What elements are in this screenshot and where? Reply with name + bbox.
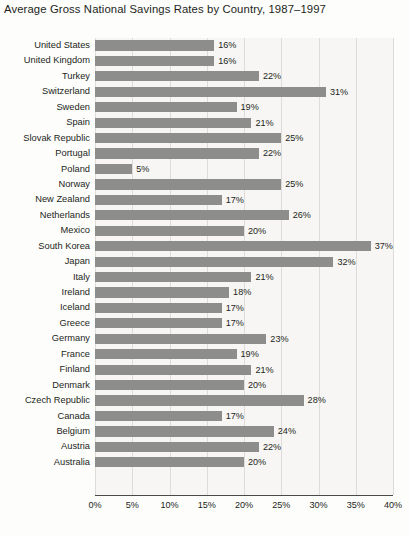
bar — [95, 426, 274, 436]
bar — [95, 303, 222, 313]
bar-row: Switzerland31% — [0, 84, 410, 99]
chart-container: Average Gross National Savings Rates by … — [0, 0, 410, 536]
bar — [95, 164, 132, 174]
category-label: Slovak Republic — [0, 132, 90, 144]
bar-row: Norway25% — [0, 177, 410, 192]
bar — [95, 395, 304, 405]
category-label: Sweden — [0, 101, 90, 113]
bar — [95, 380, 244, 390]
bar-value-label: 16% — [218, 55, 236, 67]
bar-value-label: 19% — [241, 348, 259, 360]
category-label: Mexico — [0, 224, 90, 236]
category-label: Austria — [0, 440, 90, 452]
bar-value-label: 21% — [255, 364, 273, 376]
bar — [95, 349, 237, 359]
bar-value-label: 31% — [330, 86, 348, 98]
x-tick-label: 5% — [112, 500, 152, 510]
bar-value-label: 25% — [285, 178, 303, 190]
bar-row: Finland21% — [0, 362, 410, 377]
bar-value-label: 20% — [248, 225, 266, 237]
bar-row: South Korea37% — [0, 239, 410, 254]
category-label: Germany — [0, 332, 90, 344]
x-tick-label: 25% — [261, 500, 301, 510]
category-label: Denmark — [0, 379, 90, 391]
category-label: United Kingdom — [0, 54, 90, 66]
bar — [95, 102, 237, 112]
x-tick-label: 35% — [336, 500, 376, 510]
bar — [95, 272, 251, 282]
bar — [95, 71, 259, 81]
bar-row: Austria22% — [0, 439, 410, 454]
category-label: Czech Republic — [0, 394, 90, 406]
bar — [95, 334, 266, 344]
category-label: Spain — [0, 116, 90, 128]
bar-value-label: 22% — [263, 70, 281, 82]
bar-row: Iceland17% — [0, 300, 410, 315]
bar — [95, 318, 222, 328]
category-label: Australia — [0, 456, 90, 468]
bar-value-label: 24% — [278, 425, 296, 437]
bar-value-label: 22% — [263, 441, 281, 453]
bar-value-label: 17% — [226, 317, 244, 329]
bar-row: Canada17% — [0, 409, 410, 424]
x-axis-tick-labels: 0%5%10%15%20%25%30%35%40% — [0, 500, 410, 516]
bar-row: Belgium24% — [0, 424, 410, 439]
bar-value-label: 32% — [337, 256, 355, 268]
bar-row: Ireland18% — [0, 285, 410, 300]
bar-row: Sweden19% — [0, 100, 410, 115]
bar-value-label: 17% — [226, 302, 244, 314]
bar-row: United States16% — [0, 38, 410, 53]
bar-rows: United States16%United Kingdom16%Turkey2… — [0, 38, 410, 470]
category-label: Poland — [0, 163, 90, 175]
bar-row: Germany23% — [0, 331, 410, 346]
bar-row: Czech Republic28% — [0, 393, 410, 408]
bar-value-label: 21% — [255, 271, 273, 283]
category-label: Canada — [0, 410, 90, 422]
bar-row: Slovak Republic25% — [0, 131, 410, 146]
bar-value-label: 26% — [293, 209, 311, 221]
bar-row: Poland5% — [0, 162, 410, 177]
x-tick-label: 40% — [373, 500, 410, 510]
bar — [95, 195, 222, 205]
bar — [95, 226, 244, 236]
bar-value-label: 23% — [270, 333, 288, 345]
bar-row: Turkey22% — [0, 69, 410, 84]
category-label: Ireland — [0, 286, 90, 298]
bar-row: Mexico20% — [0, 223, 410, 238]
bar — [95, 241, 371, 251]
bar — [95, 457, 244, 467]
bar-row: France19% — [0, 347, 410, 362]
bar-row: New Zealand17% — [0, 192, 410, 207]
bar — [95, 118, 251, 128]
bar — [95, 87, 326, 97]
bar-value-label: 22% — [263, 147, 281, 159]
bar-row: Japan32% — [0, 254, 410, 269]
category-label: South Korea — [0, 240, 90, 252]
bar-value-label: 21% — [255, 117, 273, 129]
category-label: New Zealand — [0, 193, 90, 205]
bar — [95, 40, 214, 50]
category-label: Iceland — [0, 301, 90, 313]
category-label: Greece — [0, 317, 90, 329]
bar — [95, 287, 229, 297]
x-tick-label: 20% — [224, 500, 264, 510]
bar-row: Australia20% — [0, 455, 410, 470]
bar-value-label: 20% — [248, 456, 266, 468]
bar — [95, 56, 214, 66]
bar-value-label: 17% — [226, 410, 244, 422]
bar — [95, 210, 289, 220]
bar-row: Spain21% — [0, 115, 410, 130]
category-label: Finland — [0, 363, 90, 375]
chart-title: Average Gross National Savings Rates by … — [4, 3, 326, 15]
bar-row: Italy21% — [0, 270, 410, 285]
bar-value-label: 28% — [308, 394, 326, 406]
category-label: Turkey — [0, 70, 90, 82]
bar — [95, 442, 259, 452]
bar — [95, 179, 281, 189]
bar-value-label: 20% — [248, 379, 266, 391]
bar-value-label: 25% — [285, 132, 303, 144]
bar-row: Denmark20% — [0, 378, 410, 393]
bar-value-label: 19% — [241, 101, 259, 113]
x-tick-label: 15% — [187, 500, 227, 510]
category-label: France — [0, 348, 90, 360]
